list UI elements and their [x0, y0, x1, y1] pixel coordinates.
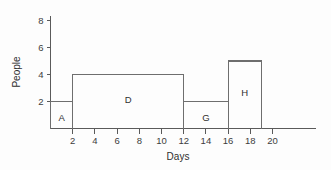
bar-label-group: ADGH	[58, 87, 248, 122]
y-axis-title: People	[11, 56, 22, 88]
y-tick-label: 8	[38, 15, 43, 26]
x-tick-label: 18	[245, 135, 256, 146]
bar-label-g: G	[202, 112, 209, 123]
x-axis-title: Days	[167, 151, 190, 162]
x-tick-label: 12	[178, 135, 189, 146]
y-tick-label: 2	[38, 96, 43, 107]
bar-label-a: A	[58, 112, 65, 123]
histogram-chart: 2468 2468101214161820 ADGH Days People	[0, 0, 331, 170]
y-tick-label: 6	[38, 42, 43, 53]
x-tick-label: 2	[70, 135, 75, 146]
x-tick-label: 6	[114, 135, 119, 146]
x-tick-label: 16	[223, 135, 234, 146]
x-axis-ticks: 2468101214161820	[70, 129, 278, 146]
bar-group	[51, 61, 262, 129]
chart-canvas: 2468 2468101214161820 ADGH Days People	[0, 0, 331, 170]
x-tick-label: 8	[137, 135, 142, 146]
x-tick-label: 10	[156, 135, 167, 146]
y-tick-label: 4	[38, 69, 43, 80]
bar-label-h: H	[241, 87, 248, 98]
x-tick-label: 20	[267, 135, 278, 146]
x-tick-label: 14	[201, 135, 212, 146]
y-axis-ticks: 2468	[38, 15, 50, 107]
bar-label-d: D	[125, 94, 132, 105]
x-tick-label: 4	[92, 135, 97, 146]
